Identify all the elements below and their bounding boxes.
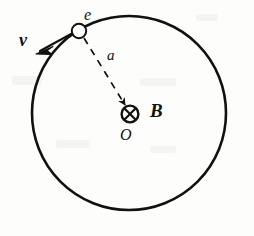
figure-canvas: e a v B O [0, 0, 254, 236]
electron-marker [72, 24, 86, 38]
radius-dashed-line [84, 38, 125, 105]
centre-label: O [120, 127, 132, 143]
magnetic-field-into-page [122, 106, 139, 123]
velocity-label: v [19, 31, 27, 49]
magnetic-field-label: B [150, 101, 163, 120]
electron-label: e [84, 7, 91, 23]
diagram-svg [0, 0, 254, 236]
radius-label: a [107, 48, 115, 63]
